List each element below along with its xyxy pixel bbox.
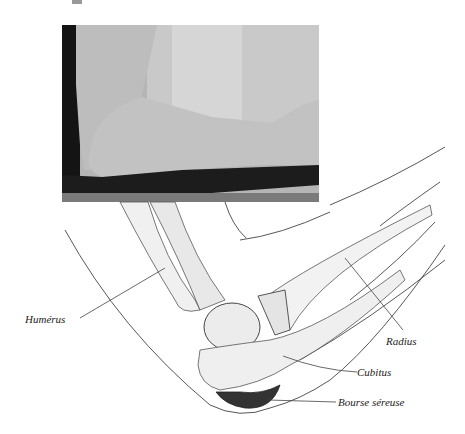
label-humerus: Humérus [25, 313, 65, 325]
label-bourse-sereuse: Bourse séreuse [338, 396, 405, 408]
label-cubitus: Cubitus [357, 366, 391, 378]
skin-outline-upper [330, 147, 445, 205]
inner-arm-contour [240, 212, 330, 240]
biceps-contour [225, 202, 246, 238]
bourse-leader-line [268, 400, 336, 402]
label-radius: Radius [386, 335, 417, 347]
anatomy-illustration [0, 0, 465, 434]
radius-head [258, 290, 290, 335]
